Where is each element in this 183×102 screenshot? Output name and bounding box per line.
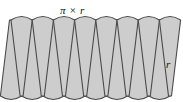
label-half-circumference-pi-times-r: π × r — [60, 5, 85, 16]
figure-container: π × r r — [0, 0, 183, 102]
sector-diagram-svg — [0, 0, 183, 102]
label-radius-r: r — [166, 59, 171, 70]
